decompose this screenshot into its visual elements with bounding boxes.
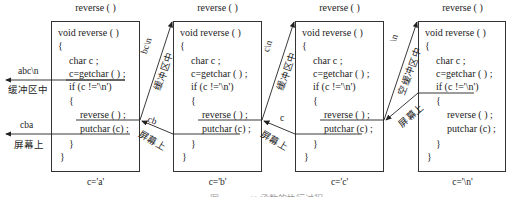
connector-arrows (0, 0, 510, 197)
output-label: cba (20, 120, 33, 130)
input-location-label: 缓冲区中 (8, 82, 48, 96)
figure-caption: 图 reverse ( ) 函数的执行过程 (210, 192, 323, 197)
output-location-label: 屏幕上 (14, 137, 44, 151)
arrow-2-return-label: c (280, 113, 284, 123)
input-label: abc\n (18, 66, 39, 76)
